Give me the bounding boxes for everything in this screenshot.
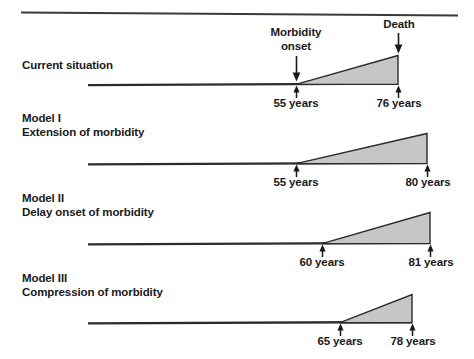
morbidity-area-triangle bbox=[322, 213, 430, 244]
row-label-model-ii: Model II Delay onset of morbidity bbox=[22, 191, 154, 219]
morbidity-area-triangle bbox=[296, 56, 398, 85]
morbidity-onset-callout-line1: Morbidity bbox=[271, 25, 322, 39]
row-label-line1: Model II bbox=[22, 191, 154, 205]
row-label-model-iii: Model III Compression of morbidity bbox=[22, 271, 163, 299]
death-age-label-model-i: 80 years bbox=[405, 176, 450, 188]
death-callout: Death bbox=[383, 17, 414, 31]
row-model-i bbox=[88, 134, 431, 178]
row-label-line1: Model III bbox=[22, 271, 163, 285]
onset-age-label-model-i: 55 years bbox=[273, 176, 318, 188]
diagram-canvas bbox=[0, 0, 474, 359]
death-age-label-model-iii: 78 years bbox=[390, 335, 435, 347]
row-label-line1: Model I bbox=[22, 111, 144, 125]
morbidity-onset-callout-line2: onset bbox=[271, 39, 322, 53]
onset-age-label-model-iii: 65 years bbox=[317, 335, 362, 347]
morbidity-area-triangle bbox=[340, 295, 412, 323]
top-divider-rule bbox=[21, 13, 458, 16]
onset-age-label-model-ii: 60 years bbox=[299, 256, 344, 268]
morbidity-onset-arrow bbox=[293, 56, 301, 82]
morbidity-models-figure: Morbidity onset Death Current situation … bbox=[0, 0, 474, 359]
death-callout-label: Death bbox=[383, 17, 414, 31]
onset-age-label-current-situation: 55 years bbox=[273, 97, 318, 109]
row-label-line2: Compression of morbidity bbox=[22, 285, 163, 299]
row-label-line2: Extension of morbidity bbox=[22, 125, 144, 139]
row-model-iii bbox=[88, 295, 416, 337]
morbidity-onset-callout: Morbidity onset bbox=[271, 25, 322, 53]
row-label-line2: Delay onset of morbidity bbox=[22, 205, 154, 219]
row-model-ii bbox=[88, 213, 434, 258]
row-label-model-i: Model I Extension of morbidity bbox=[22, 111, 144, 139]
row-label-current-situation: Current situation bbox=[22, 58, 113, 72]
row-label-line1: Current situation bbox=[22, 58, 113, 72]
row-current-situation bbox=[88, 33, 402, 98]
morbidity-area-triangle bbox=[296, 134, 427, 164]
death-age-label-model-ii: 81 years bbox=[408, 256, 453, 268]
death-arrow bbox=[395, 33, 403, 54]
death-age-label-current-situation: 76 years bbox=[376, 97, 421, 109]
